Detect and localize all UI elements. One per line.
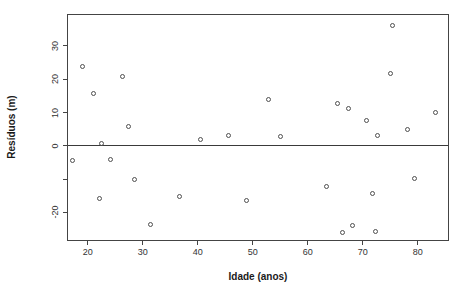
data-point <box>405 127 410 132</box>
data-point <box>226 133 231 138</box>
y-axis-tick <box>63 212 67 213</box>
y-axis-tick <box>63 145 67 146</box>
x-axis-tick-label: 80 <box>413 247 423 257</box>
data-point <box>324 184 329 189</box>
data-point <box>266 97 271 102</box>
y-axis-tick <box>63 112 67 113</box>
y-axis-tick <box>63 79 67 80</box>
data-point <box>132 177 137 182</box>
data-point <box>198 137 203 142</box>
data-point <box>412 176 417 181</box>
data-point <box>244 198 249 203</box>
y-axis-tick <box>63 179 67 180</box>
zero-reference-line <box>68 145 448 146</box>
data-point <box>375 133 380 138</box>
y-axis-tick-label: 10 <box>50 108 60 118</box>
x-axis-tick-label: 60 <box>303 247 313 257</box>
x-axis-tick-label: 50 <box>248 247 258 257</box>
x-axis-tick <box>252 241 253 245</box>
x-axis-tick-label: 20 <box>83 247 93 257</box>
data-point <box>350 223 355 228</box>
x-axis-tick <box>307 241 308 245</box>
x-axis-tick <box>417 241 418 245</box>
y-axis-tick-label: -20 <box>50 206 60 219</box>
x-axis-tick-label: 40 <box>193 247 203 257</box>
x-axis-tick-label: 30 <box>138 247 148 257</box>
data-point <box>126 124 131 129</box>
x-axis-tick <box>87 241 88 245</box>
x-axis-title: Idade (anos) <box>229 271 288 282</box>
data-point <box>364 118 369 123</box>
plot-area <box>67 14 449 241</box>
x-axis-tick-label: 70 <box>358 247 368 257</box>
x-axis-tick <box>142 241 143 245</box>
x-axis-tick <box>197 241 198 245</box>
data-point <box>177 194 182 199</box>
y-axis-tick-label: 30 <box>50 41 60 51</box>
x-axis-tick <box>362 241 363 245</box>
y-axis-tick-label: 20 <box>50 74 60 84</box>
y-axis-title: Resíduos (m) <box>6 95 17 158</box>
y-axis-tick-label: 0 <box>50 143 60 148</box>
data-point <box>335 101 340 106</box>
data-point <box>388 71 393 76</box>
y-axis-tick <box>63 45 67 46</box>
scatter-plot-figure: Resíduos (m) Idade (anos) 20304050607080… <box>0 0 464 297</box>
data-point <box>370 191 375 196</box>
data-point <box>99 141 104 146</box>
